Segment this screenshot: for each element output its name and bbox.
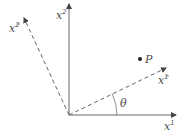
x2-bar-axis [24, 18, 69, 115]
theta-arc-icon [112, 94, 117, 115]
x1-bar-axis [69, 68, 166, 115]
coordinate-rotation-diagram: x1 x2 x1 x2 P θ [0, 0, 186, 136]
x1-bar-axis-label: x1 [158, 73, 168, 87]
x1-axis-label: x1 [164, 119, 174, 133]
theta-label: θ [120, 97, 127, 110]
diagram-canvas: x1 x2 x1 x2 P θ [0, 0, 186, 136]
x2-axis-label: x2 [56, 8, 66, 22]
point-p-dot [138, 57, 142, 61]
point-p-label: P [144, 53, 153, 66]
x2-bar-axis-label: x2 [9, 21, 19, 35]
